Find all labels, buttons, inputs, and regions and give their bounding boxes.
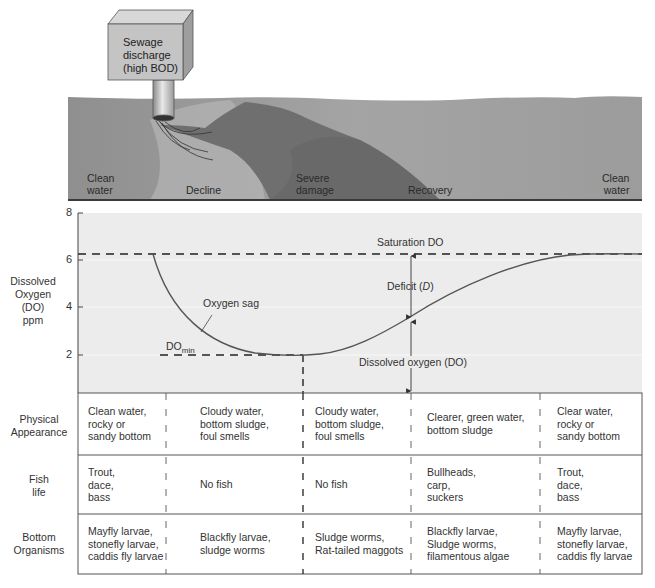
row-label-line: Physical	[4, 413, 74, 426]
y-axis-label-line: ppm	[2, 314, 64, 327]
cell-line: filamentous algae	[427, 550, 509, 563]
row-label-line: Organisms	[4, 544, 74, 557]
zone-label-line: water	[87, 184, 114, 196]
row-label-fish-life: Fish life	[4, 473, 74, 499]
y-tick-4: 4	[66, 300, 72, 312]
zone-label-line: Recovery	[408, 184, 452, 196]
table-cell: Clear water, rocky or sandy bottom	[557, 405, 620, 443]
cell-line: Sludge worms,	[315, 531, 403, 544]
saturation-do-label: Saturation DO	[377, 236, 444, 248]
row-label-bottom-organisms: Bottom Organisms	[4, 531, 74, 557]
cell-line: bass	[88, 491, 115, 504]
cell-line: No fish	[200, 478, 233, 491]
zone-label-line: Decline	[186, 184, 221, 196]
table-cell: Trout, dace, bass	[557, 466, 584, 504]
table-cell: Trout, dace, bass	[88, 466, 115, 504]
cell-line: Clear water,	[557, 405, 620, 418]
row-label-line: Fish	[4, 473, 74, 486]
y-tick-6: 6	[66, 253, 72, 265]
cell-line: Rat-tailed maggots	[315, 544, 403, 557]
table-cell: Mayfly larvae, stonefly larvae, caddis f…	[88, 525, 163, 563]
cell-line: bottom sludge	[427, 424, 524, 437]
y-axis-label-line: (DO)	[2, 301, 64, 314]
dissolved-oxygen-label: Dissolved oxygen (DO)	[359, 356, 467, 368]
oxygen-sag-label: Oxygen sag	[203, 297, 259, 309]
table-cell: Bullheads, carp, suckers	[427, 466, 476, 504]
row-label-physical-appearance: Physical Appearance	[4, 413, 74, 439]
sewage-box-top	[108, 10, 193, 24]
cell-line: foul smells	[200, 430, 269, 443]
zone-label-line: Severe	[296, 172, 334, 184]
y-axis-label-line: Dissolved	[2, 275, 64, 288]
oxygen-sag-chart	[0, 205, 655, 400]
deficit-label-prefix: Deficit (	[387, 280, 423, 292]
zone-label-line: Clean	[87, 172, 114, 184]
cell-line: sandy bottom	[88, 430, 151, 443]
cell-line: Sludge worms,	[427, 538, 509, 551]
cell-line: rocky or	[557, 418, 620, 431]
row-label-line: life	[4, 486, 74, 499]
table-cell: Blackfly larvae, Sludge worms, filamento…	[427, 525, 509, 563]
y-tick-2: 2	[66, 348, 72, 360]
cell-line: Blackfly larvae,	[427, 525, 509, 538]
deficit-label: Deficit (D)	[387, 280, 434, 292]
cell-line: dace,	[557, 479, 584, 492]
cell-line: Trout,	[557, 466, 584, 479]
cell-line: bottom sludge,	[315, 418, 384, 431]
table-cell: Cloudy water, bottom sludge, foul smells	[315, 405, 384, 443]
cell-line: Trout,	[88, 466, 115, 479]
table-cell: Clearer, green water, bottom sludge	[427, 411, 524, 436]
domin-label: DOmin	[166, 340, 195, 355]
cell-line: Cloudy water,	[315, 405, 384, 418]
cell-line: foul smells	[315, 430, 384, 443]
zone-label-severe-damage: Severe damage	[296, 172, 334, 196]
cell-line: Mayfly larvae,	[88, 525, 163, 538]
zone-label-decline: Decline	[186, 184, 221, 196]
zone-label-line: Clean	[602, 172, 629, 184]
y-axis-label-line: Oxygen	[2, 288, 64, 301]
cell-line: stonefly larvae,	[557, 538, 632, 551]
table-cell: Cloudy water, bottom sludge, foul smells	[200, 405, 269, 443]
cell-line: stonefly larvae,	[88, 538, 163, 551]
deficit-label-suffix: )	[430, 280, 434, 292]
row-label-line: Bottom	[4, 531, 74, 544]
table-cell: Sludge worms, Rat-tailed maggots	[315, 531, 403, 556]
cell-line: Blackfly larvae,	[200, 531, 271, 544]
y-tick-8: 8	[66, 206, 72, 218]
cell-line: Clearer, green water,	[427, 411, 524, 424]
cell-line: Bullheads,	[427, 466, 476, 479]
cell-line: caddis fly larvae	[88, 550, 163, 563]
cell-line: sludge worms	[200, 544, 271, 557]
cell-line: rocky or	[88, 418, 151, 431]
table-cell: No fish	[200, 478, 233, 491]
sewage-label-line: Sewage	[123, 36, 178, 49]
zone-label-line: water	[602, 184, 629, 196]
zone-label-clean-water-left: Clean water	[87, 172, 114, 196]
cell-line: dace,	[88, 479, 115, 492]
cell-line: Cloudy water,	[200, 405, 269, 418]
cell-line: carp,	[427, 479, 476, 492]
cell-line: sandy bottom	[557, 430, 620, 443]
cell-line: bass	[557, 491, 584, 504]
table-cell: Blackfly larvae, sludge worms	[200, 531, 271, 556]
domin-label-sub: min	[182, 346, 195, 355]
cell-line: caddis fly larvae	[557, 550, 632, 563]
row-label-line: Appearance	[4, 426, 74, 439]
cell-line: bottom sludge,	[200, 418, 269, 431]
table-cell: No fish	[315, 478, 348, 491]
discharge-pipe	[153, 80, 174, 118]
domin-label-main: DO	[166, 340, 182, 352]
cell-line: suckers	[427, 491, 476, 504]
zone-label-line: damage	[296, 184, 334, 196]
sewage-label-line: discharge	[123, 49, 178, 62]
cell-line: Clean water,	[88, 405, 151, 418]
y-axis-label: Dissolved Oxygen (DO) ppm	[2, 275, 64, 327]
sewage-discharge-label: Sewage discharge (high BOD)	[123, 36, 178, 75]
zone-label-recovery: Recovery	[408, 184, 452, 196]
sewage-label-line: (high BOD)	[123, 62, 178, 75]
cell-line: Mayfly larvae,	[557, 525, 632, 538]
zone-label-clean-water-right: Clean water	[602, 172, 629, 196]
cell-line: No fish	[315, 478, 348, 491]
table-cell: Clean water, rocky or sandy bottom	[88, 405, 151, 443]
table-cell: Mayfly larvae, stonefly larvae, caddis f…	[557, 525, 632, 563]
